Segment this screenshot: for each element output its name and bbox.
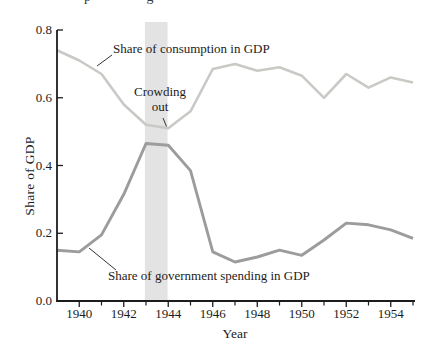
consumption-leader-line [97, 55, 112, 66]
y-tick-label: 0.8 [25, 22, 52, 38]
x-axis-title: Year [205, 326, 265, 342]
y-tick-label: 0.0 [25, 293, 52, 309]
crowding-out-band [145, 22, 168, 301]
x-tick-label: 1952 [328, 306, 364, 322]
x-tick-label: 1954 [373, 306, 409, 322]
x-tick-label: 1950 [284, 306, 320, 322]
y-tick-label: 0.4 [25, 158, 52, 174]
crowding-out-label: Crowding out [129, 85, 191, 114]
consumption-series-label: Share of consumption in GDP [113, 42, 270, 57]
series-line-consumption [57, 50, 413, 128]
government-series-label: Share of government spending in GDP [108, 269, 310, 284]
x-tick-label: 1940 [61, 306, 97, 322]
x-tick-label: 1946 [195, 306, 231, 322]
x-tick-label: 1944 [150, 306, 186, 322]
series-line-government [57, 144, 413, 263]
x-tick-label: 1942 [106, 306, 142, 322]
x-tick-label: 1948 [239, 306, 275, 322]
y-tick-label: 0.6 [25, 90, 52, 106]
chart-figure: p g Share of GDP Year Share of consumpti… [0, 0, 439, 358]
government-leader-line [89, 248, 116, 270]
y-tick-label: 0.2 [25, 225, 52, 241]
y-axis-title: Share of GDP [22, 136, 38, 215]
